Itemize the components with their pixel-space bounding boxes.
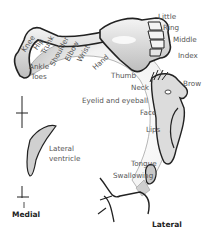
label-eyelid: Eyelid and eyeball: [82, 97, 148, 104]
label-lateral-ventricle-1: Lateral: [49, 145, 74, 152]
label-brow: Brow: [183, 80, 201, 87]
label-toes: Toes: [31, 73, 47, 80]
midline-marker-bottom: [17, 186, 29, 198]
label-medial: Medial: [12, 210, 40, 219]
midline-marker-top: [16, 96, 28, 128]
label-little: Little: [158, 13, 176, 20]
label-tongue: Tongue: [131, 160, 157, 167]
label-thumb: Thumb: [111, 72, 136, 79]
label-neck: Neck: [131, 84, 149, 91]
label-ankle: Ankle: [29, 63, 49, 70]
label-middle: Middle: [173, 36, 197, 43]
label-ring: Ring: [163, 24, 179, 31]
label-index: Index: [178, 52, 198, 59]
label-face: Face: [140, 109, 156, 116]
label-swallowing: Swallowing: [113, 172, 153, 179]
label-lips: Lips: [146, 126, 160, 133]
label-lateral: Lateral: [152, 220, 182, 229]
label-lateral-ventricle-2: ventricle: [49, 155, 80, 162]
